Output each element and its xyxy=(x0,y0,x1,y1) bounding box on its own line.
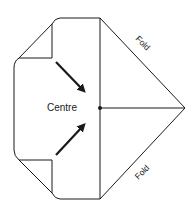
arrow-down-right-icon xyxy=(56,62,83,90)
fold-diagram: Centre Fold Fold xyxy=(0,0,193,209)
arrow-up-right-icon xyxy=(56,126,83,155)
fold-label-bottom: Fold xyxy=(133,162,152,181)
centre-dot xyxy=(98,106,102,110)
centre-label: Centre xyxy=(47,102,77,113)
fold-line-top xyxy=(100,18,185,108)
fold-line-bottom xyxy=(100,108,185,199)
fold-label-top: Fold xyxy=(134,34,153,53)
